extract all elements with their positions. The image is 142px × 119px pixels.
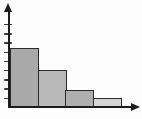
bar-2 [38,70,67,108]
x-axis-arrowhead-icon [131,103,140,111]
y-axis-line [8,10,10,108]
bar-1 [10,48,39,108]
x-axis-line [8,106,134,108]
y-axis-arrowhead-icon [4,3,12,12]
bar-3 [65,90,94,107]
bar-chart-figure [0,0,142,119]
